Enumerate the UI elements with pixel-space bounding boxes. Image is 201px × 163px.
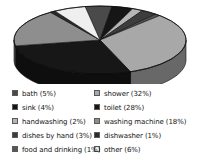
legend-item-dishes-by-hand: dishes by hand (3%) bbox=[0, 128, 91, 142]
legend-item-toilet: toilet (28%) bbox=[91, 100, 201, 114]
legend-swatch-toilet bbox=[94, 104, 100, 110]
pie-plot-area bbox=[0, 0, 201, 84]
legend-item-shower: shower (32%) bbox=[91, 86, 201, 100]
pie-chart-figure: bath (5%) shower (32%) sink (4%) toilet … bbox=[0, 0, 201, 163]
legend-label-dishes-by-hand: dishes by hand (3%) bbox=[22, 132, 92, 139]
legend-swatch-dishwasher bbox=[94, 132, 100, 138]
legend-label-other: other (6%) bbox=[104, 146, 140, 153]
legend-label-handwashing: handwashing (2%) bbox=[22, 118, 86, 125]
legend-swatch-handwashing bbox=[12, 118, 18, 124]
legend-swatch-food-and-drinking bbox=[12, 146, 18, 152]
legend-item-bath: bath (5%) bbox=[0, 86, 91, 100]
legend-label-shower: shower (32%) bbox=[104, 90, 151, 97]
chart-legend: bath (5%) shower (32%) sink (4%) toilet … bbox=[0, 84, 201, 163]
legend-item-dishwasher: dishwasher (1%) bbox=[91, 128, 201, 142]
legend-label-food-and-drinking: food and drinking (1%) bbox=[22, 146, 100, 153]
legend-label-sink: sink (4%) bbox=[22, 104, 54, 111]
legend-swatch-bath bbox=[12, 90, 18, 96]
legend-item-other: other (6%) bbox=[91, 142, 201, 156]
legend-item-handwashing: handwashing (2%) bbox=[0, 114, 91, 128]
legend-label-bath: bath (5%) bbox=[22, 90, 56, 97]
legend-label-toilet: toilet (28%) bbox=[104, 104, 144, 111]
legend-item-washing-machine: washing machine (18%) bbox=[91, 114, 201, 128]
legend-swatch-shower bbox=[94, 90, 100, 96]
legend-swatch-washing-machine bbox=[94, 118, 100, 124]
legend-item-food-and-drinking: food and drinking (1%) bbox=[0, 142, 91, 156]
legend-item-sink: sink (4%) bbox=[0, 100, 91, 114]
legend-swatch-sink bbox=[12, 104, 18, 110]
legend-swatch-dishes-by-hand bbox=[12, 132, 18, 138]
legend-label-washing-machine: washing machine (18%) bbox=[104, 118, 186, 125]
legend-label-dishwasher: dishwasher (1%) bbox=[104, 132, 161, 139]
pie-chart-graphic bbox=[0, 0, 201, 84]
